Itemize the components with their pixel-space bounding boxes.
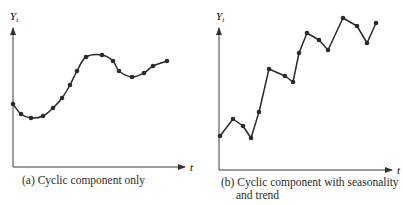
data-point-marker <box>68 83 73 88</box>
panel-b-x-label: t <box>397 164 401 176</box>
data-point-marker <box>19 112 24 117</box>
data-point-marker <box>117 69 122 74</box>
data-point-marker <box>291 80 296 85</box>
data-point-marker <box>100 53 105 58</box>
data-point-marker <box>231 117 236 122</box>
panel-a-series-line <box>13 55 167 118</box>
data-point-marker <box>218 134 223 139</box>
panel-a-x-label: t <box>190 161 194 173</box>
panel-a-caption-text: (a) Cyclic component only <box>22 174 145 186</box>
data-point-marker <box>355 24 360 29</box>
data-point-marker <box>374 21 379 26</box>
data-point-marker <box>241 124 246 129</box>
data-point-marker <box>297 51 302 56</box>
data-point-marker <box>142 71 147 76</box>
data-point-marker <box>84 55 89 60</box>
data-point-marker <box>11 102 16 107</box>
panel-a-markers <box>11 53 170 121</box>
data-point-marker <box>365 41 370 46</box>
data-point-marker <box>130 75 135 80</box>
panel-b-caption: (b) Cyclic component with seasonality an… <box>221 176 399 202</box>
data-point-marker <box>267 67 272 72</box>
data-point-marker <box>257 110 262 115</box>
data-point-marker <box>111 59 116 64</box>
panel-b-caption-line2: and trend <box>221 189 399 202</box>
panel-b-series-line <box>220 18 376 138</box>
panel-a: Yt t <box>10 10 194 173</box>
data-point-marker <box>29 116 34 121</box>
panel-b-caption-line1: (b) Cyclic component with seasonality <box>221 176 399 189</box>
data-point-marker <box>75 69 80 74</box>
panel-b-markers <box>218 16 379 141</box>
panel-a-y-label: Yt <box>10 10 19 24</box>
data-point-marker <box>60 96 65 101</box>
data-point-marker <box>283 74 288 79</box>
data-point-marker <box>305 31 310 36</box>
data-point-marker <box>317 38 322 43</box>
data-point-marker <box>326 48 331 53</box>
panel-b: Yt t <box>216 10 401 176</box>
data-point-marker <box>51 106 56 111</box>
data-point-marker <box>151 64 156 69</box>
data-point-marker <box>341 16 346 21</box>
data-point-marker <box>249 136 254 141</box>
data-point-marker <box>165 59 170 64</box>
panel-b-y-label: Yt <box>216 10 225 24</box>
panel-a-caption: (a) Cyclic component only <box>22 174 145 187</box>
data-point-marker <box>41 114 46 119</box>
